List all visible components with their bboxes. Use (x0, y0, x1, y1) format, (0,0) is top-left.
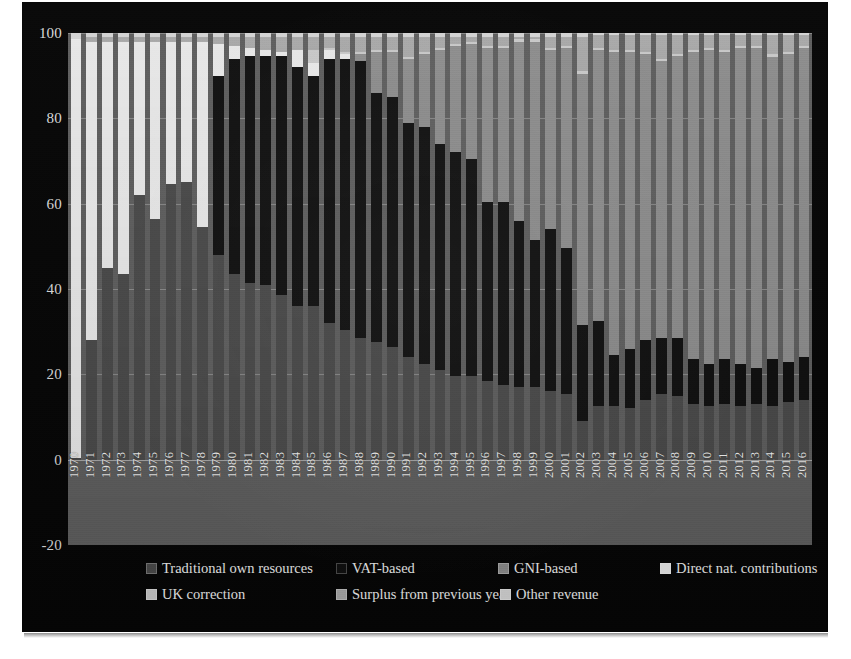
legend-item[interactable]: Surplus from previous year (336, 587, 510, 602)
bar-column[interactable] (290, 33, 306, 545)
bar-column[interactable] (416, 33, 432, 545)
bar-column[interactable] (543, 33, 559, 545)
bar-column[interactable] (749, 33, 765, 545)
bar-column[interactable] (495, 33, 511, 545)
bar-segment (625, 408, 636, 459)
legend-item[interactable]: Traditional own resources (146, 561, 313, 576)
bar-stack (466, 33, 477, 460)
scanned-figure-page: -20020406080100 197019711972197319741975… (0, 0, 851, 659)
bar-segment (799, 357, 810, 400)
bar-segment (308, 306, 319, 460)
bar-column[interactable] (796, 33, 812, 545)
y-tick-label: 0 (28, 452, 62, 467)
y-tick-label: 100 (28, 26, 62, 41)
bar-segment (561, 248, 572, 393)
bar-column[interactable] (717, 33, 733, 545)
bar-segment (355, 61, 366, 338)
bar-segment (799, 35, 810, 46)
bar-column[interactable] (226, 33, 242, 545)
bar-column[interactable] (764, 33, 780, 545)
bar-segment (134, 195, 145, 460)
bar-column[interactable] (685, 33, 701, 545)
bar-column[interactable] (622, 33, 638, 545)
bar-column[interactable] (179, 33, 195, 545)
bar-segment (308, 50, 319, 63)
bar-column[interactable] (638, 33, 654, 545)
bar-stack (102, 33, 113, 460)
bar-column[interactable] (464, 33, 480, 545)
bar-segment (561, 37, 572, 46)
bar-column[interactable] (590, 33, 606, 545)
bar-column[interactable] (527, 33, 543, 545)
bar-stack (118, 33, 129, 460)
bar-column[interactable] (559, 33, 575, 545)
bar-segment (704, 364, 715, 407)
bar-column[interactable] (147, 33, 163, 545)
legend-item[interactable]: Other revenue (500, 587, 599, 602)
bar-column[interactable] (274, 33, 290, 545)
bar-column[interactable] (68, 33, 84, 545)
bar-column[interactable] (780, 33, 796, 545)
bar-segment (213, 76, 224, 255)
bar-segment (324, 59, 335, 324)
bar-column[interactable] (337, 33, 353, 545)
bar-segment (561, 48, 572, 249)
bar-stack (403, 33, 414, 460)
bar-stack (134, 33, 145, 460)
bar-segment (229, 37, 240, 46)
bar-column[interactable] (242, 33, 258, 545)
bar-column[interactable] (163, 33, 179, 545)
legend-item[interactable]: Direct nat. contributions (660, 561, 817, 576)
bar-stack (276, 33, 287, 460)
bar-column[interactable] (195, 33, 211, 545)
y-tick-label: 20 (28, 367, 62, 382)
bar-column[interactable] (84, 33, 100, 545)
bar-column[interactable] (305, 33, 321, 545)
bar-column[interactable] (480, 33, 496, 545)
bar-column[interactable] (131, 33, 147, 545)
bar-segment (767, 406, 778, 459)
bar-column[interactable] (733, 33, 749, 545)
bar-segment (340, 59, 351, 330)
bar-segment (371, 342, 382, 459)
bar-column[interactable] (100, 33, 116, 545)
bar-column[interactable] (353, 33, 369, 545)
bar-segment (719, 359, 730, 404)
bar-column[interactable] (369, 33, 385, 545)
bar-column[interactable] (321, 33, 337, 545)
bar-segment (482, 48, 493, 202)
bar-column[interactable] (575, 33, 591, 545)
bar-column[interactable] (669, 33, 685, 545)
bar-segment (545, 229, 556, 391)
bar-column[interactable] (115, 33, 131, 545)
bar-segment (625, 35, 636, 50)
bar-segment (735, 35, 746, 46)
bar-column[interactable] (448, 33, 464, 545)
bar-segment (197, 227, 208, 460)
bar-segment (640, 340, 651, 400)
bar-segment (767, 57, 778, 360)
legend-label: Traditional own resources (162, 561, 313, 576)
bar-column[interactable] (654, 33, 670, 545)
bar-column[interactable] (701, 33, 717, 545)
bar-column[interactable] (385, 33, 401, 545)
bar-column[interactable] (258, 33, 274, 545)
bar-column[interactable] (511, 33, 527, 545)
bar-column[interactable] (400, 33, 416, 545)
plot-area (68, 33, 812, 545)
bar-segment (355, 37, 366, 52)
bar-column[interactable] (210, 33, 226, 545)
bar-column[interactable] (606, 33, 622, 545)
bar-stack (355, 33, 366, 460)
bar-segment (545, 391, 556, 459)
legend-swatch-icon (336, 563, 347, 574)
bar-segment (229, 59, 240, 274)
bar-segment (530, 42, 541, 240)
bar-segment (751, 35, 762, 46)
legend-item[interactable]: VAT-based (336, 561, 415, 576)
legend-item[interactable]: UK correction (146, 587, 245, 602)
legend-item[interactable]: GNI-based (498, 561, 578, 576)
bar-column[interactable] (432, 33, 448, 545)
bar-stack (197, 33, 208, 460)
bar-segment (577, 74, 588, 326)
